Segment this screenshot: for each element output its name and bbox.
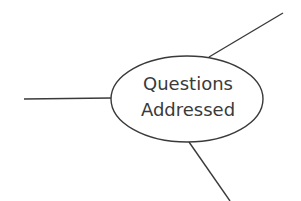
lower-branch-line [189,142,230,201]
central-node-label-line2: Addressed [141,99,235,120]
mind-map-diagram: Questions Addressed [0,0,301,201]
central-node-label-line1: Questions [143,73,233,94]
left-branch-line [24,98,111,99]
upper-right-branch-line [209,13,283,57]
